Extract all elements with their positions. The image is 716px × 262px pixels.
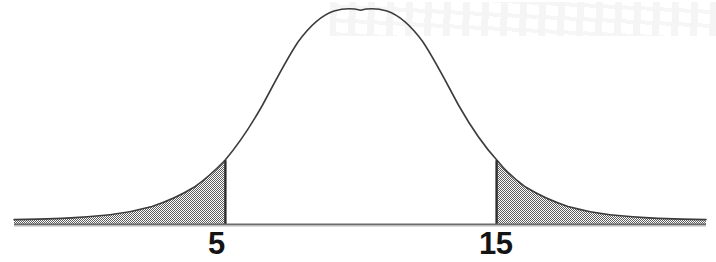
bell-curve-outline: [14, 9, 706, 220]
upper-tail-shaded-area: [497, 160, 706, 224]
axis-tick-label-lower: 5: [208, 228, 225, 259]
lower-tail-shaded-area: [14, 160, 225, 224]
distribution-curve-graphic: [0, 0, 716, 262]
axis-tick-label-upper: 15: [479, 228, 512, 259]
normal-distribution-figure: 5 15: [0, 0, 716, 262]
